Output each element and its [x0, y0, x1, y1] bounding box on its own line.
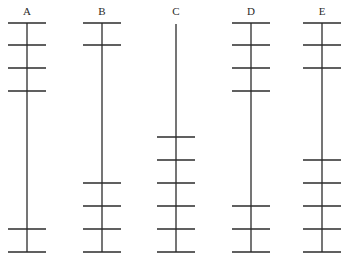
- ladder-diagram: ABCDE: [0, 0, 345, 254]
- column-a: A: [8, 5, 46, 252]
- column-label: D: [247, 5, 255, 17]
- column-label: E: [319, 5, 326, 17]
- column-b: B: [83, 5, 121, 252]
- column-c: C: [157, 5, 195, 252]
- column-label: C: [172, 5, 179, 17]
- column-label: B: [98, 5, 105, 17]
- column-label: A: [23, 5, 31, 17]
- column-e: E: [303, 5, 341, 252]
- column-d: D: [232, 5, 270, 252]
